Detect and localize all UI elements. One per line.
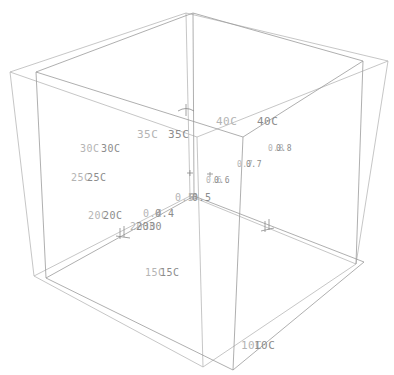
box-b-top-back-edges [36,13,363,72]
value-label-0.7-b: 0.7 [246,161,262,169]
box-a-right-vertical [356,61,388,264]
box-b-left-vertical [36,72,46,278]
year-label-2030-b: 2030 [136,222,162,232]
temp-label-35c-b: 35C [168,129,189,140]
bounding-box-a [10,13,388,367]
box-a-front-vertical [197,137,203,367]
box-a-left-vertical [10,72,34,276]
temp-label-30c-b: 30C [101,144,121,154]
temp-label-15c-b: 15C [160,268,180,278]
box-b-top-front-edges [36,61,363,137]
box-a-bottom-back-edges [34,196,356,276]
temp-label-30c-a: 30C [80,144,100,154]
3d-plot-wireframe[interactable] [0,0,394,375]
temp-label-10c-b: 10C [254,340,275,351]
box-b-bottom-front-edges [46,262,364,370]
temp-label-40c-b: 40C [257,116,278,127]
box-a-top-back-edges [10,13,388,72]
temp-label-35c-a: 35C [137,129,158,140]
value-label-0.4-b: 0.4 [155,209,175,219]
value-label-0.8-b: 0.8 [276,145,292,153]
temp-label-40c-a: 40C [216,116,237,127]
value-label-0.6-b: 0.6 [214,177,230,185]
temp-label-25c-b: 25C [87,173,107,183]
value-label-0.5-b: 0.5 [192,193,212,203]
box-b-bottom-back-edges [46,196,364,278]
box-b-back-vertical [193,13,194,196]
box-a-back-vertical [186,13,190,196]
box-a-top-front-edges [10,61,388,137]
box-b-front-vertical [233,137,243,370]
temp-label-20c-b: 20C [103,211,123,221]
box-b-right-vertical [356,61,363,264]
axis-ticks [116,104,274,239]
